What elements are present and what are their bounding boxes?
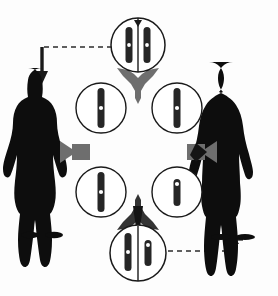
- chromosome-x-lower-left: [98, 172, 105, 212]
- circle-bottom[interactable]: [110, 225, 166, 281]
- dashed-arrow-to-female: [36, 47, 112, 84]
- circle-top[interactable]: [111, 18, 165, 72]
- arrow-stem-female: [40, 47, 43, 72]
- chromosome-y-lower-right: [174, 179, 181, 206]
- chromosome-x-upper-right: [174, 88, 181, 128]
- connector-left-tee: [60, 141, 90, 163]
- inheritance-cycle-svg: [0, 0, 278, 296]
- chromosome-x-upper-left: [98, 88, 105, 128]
- chromosome-x-right: [144, 27, 151, 63]
- female-silhouette: [3, 68, 67, 267]
- circle-lower-right[interactable]: [152, 167, 202, 217]
- circle-upper-left[interactable]: [76, 83, 126, 133]
- diagram-canvas: [0, 0, 278, 296]
- male-silhouette: [189, 62, 255, 276]
- chromosome-x-bottom: [125, 233, 132, 271]
- dashed-line-female: [42, 47, 112, 72]
- circle-upper-right[interactable]: [152, 83, 202, 133]
- chromosome-x-left: [126, 27, 133, 63]
- circle-lower-left[interactable]: [76, 167, 126, 217]
- chromosome-y-bottom: [145, 240, 152, 266]
